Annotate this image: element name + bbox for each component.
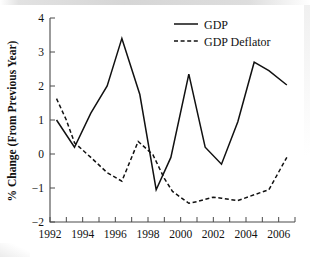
legend-label-gdp: GDP (204, 18, 228, 32)
x-tick-label: 2004 (235, 228, 258, 240)
y-tick-label: 0 (38, 148, 44, 160)
x-tick-label: 2006 (267, 228, 290, 240)
line-chart: 43210−1−2 199219941996199820002002200420… (0, 0, 310, 257)
x-tick-label: 1992 (39, 228, 62, 240)
data-series (57, 38, 287, 203)
y-tick-label: 2 (38, 80, 44, 92)
x-tick-label: 2002 (202, 228, 225, 240)
legend-label-gdp-deflator: GDP Deflator (204, 35, 271, 49)
scan-artifact-right (304, 5, 310, 257)
scan-artifact-top (0, 0, 310, 5)
chart-legend: GDPGDP Deflator (174, 18, 271, 49)
y-tick-label: −1 (32, 182, 44, 194)
y-tick-label: 1 (38, 114, 44, 126)
y-tick-label: 4 (38, 12, 44, 24)
y-axis-title: % Change (From Previous Year) (6, 40, 19, 201)
scan-artifact-corner (0, 243, 30, 257)
series-line-gdp (57, 38, 287, 189)
x-tick-label: 1994 (71, 228, 94, 240)
chart-container: 43210−1−2 199219941996199820002002200420… (0, 0, 310, 257)
x-axis-ticks: 19921994199619982000200220042006 (39, 217, 296, 240)
x-tick-label: 1996 (104, 228, 127, 240)
y-tick-label: −2 (32, 216, 44, 228)
x-tick-label: 1998 (137, 228, 160, 240)
y-tick-label: 3 (38, 46, 44, 58)
y-axis-ticks: 43210−1−2 (32, 12, 55, 228)
x-tick-label: 2000 (169, 228, 192, 240)
